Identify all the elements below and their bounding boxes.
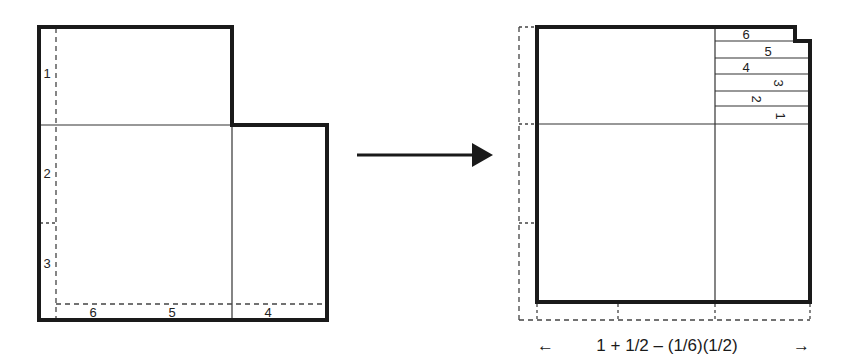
- strip-label-6: 6: [742, 27, 749, 42]
- right-outline: [537, 27, 810, 302]
- left-label-4: 4: [264, 305, 271, 320]
- left-label-5: 5: [168, 305, 175, 320]
- left-outline: [39, 27, 327, 320]
- strip-label-5: 5: [764, 44, 771, 59]
- strip-label-4: 4: [742, 60, 749, 75]
- strip-label-2: 2: [749, 95, 764, 102]
- caption-left-arrow: ←: [537, 336, 554, 355]
- strip-label-3: 3: [771, 79, 786, 86]
- width-caption: 1 + 1/2 – (1/6)(1/2): [596, 336, 737, 355]
- left-label-6: 6: [89, 305, 96, 320]
- left-label-2: 2: [43, 166, 50, 181]
- left-label-1: 1: [43, 66, 50, 81]
- left-figure: 1 2 3 6 5 4: [39, 27, 327, 320]
- transform-arrow-icon: [357, 143, 493, 167]
- caption-right-arrow: →: [793, 336, 810, 355]
- strip-label-1: 1: [773, 112, 788, 119]
- right-figure: 6 5 4 3 2 1 ← 1 + 1/2 – (1/6)(1/2) →: [519, 27, 810, 355]
- area-rearrangement-diagram: 1 2 3 6 5 4 6 5 4 3: [0, 0, 849, 363]
- left-label-3: 3: [43, 256, 50, 271]
